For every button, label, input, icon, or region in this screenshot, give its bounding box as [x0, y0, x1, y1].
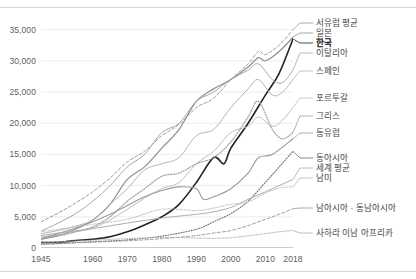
legend-label-5: 포르투갈 — [316, 93, 348, 103]
legend-label-4: 스페인 — [316, 66, 340, 76]
y-tick-label: 10,000 — [0, 181, 36, 191]
x-tick-label: 1945 — [21, 254, 61, 264]
series-line-7 — [41, 139, 293, 239]
chart-legend: 서유럽 평균일본한국이탈리아스페인포르투갈그리스동유럽동아시아세계 평균남미남아… — [293, 0, 416, 279]
series-line-12 — [41, 231, 293, 243]
chart-svg — [41, 14, 293, 248]
y-tick-label: 15,000 — [0, 149, 36, 159]
legend-label-0: 서유럽 평균 — [316, 18, 358, 28]
series-line-3 — [41, 64, 293, 232]
legend-label-9: 세계 평균 — [316, 163, 350, 173]
y-tick-label: 30,000 — [0, 56, 36, 66]
legend-label-3: 이탈리아 — [316, 48, 348, 58]
y-tick-label: 25,000 — [0, 87, 36, 97]
legend-label-7: 동유럽 — [316, 128, 340, 138]
series-line-4 — [41, 79, 293, 233]
legend-label-12: 사하라 이남 아프리카 — [316, 228, 393, 238]
legend-label-1: 일본 — [316, 28, 332, 38]
chart-figure: 05,00010,00015,00020,00025,00030,00035,0… — [0, 0, 416, 279]
y-tick-label: 0 — [0, 243, 36, 253]
plot-area — [41, 14, 293, 248]
y-tick-label: 20,000 — [0, 118, 36, 128]
legend-label-10: 남미 — [316, 173, 332, 183]
legend-label-2: 한국 — [316, 38, 332, 48]
series-line-6 — [41, 101, 293, 239]
series-line-0 — [41, 30, 293, 222]
legend-label-6: 그리스 — [316, 111, 340, 121]
legend-label-8: 동아시아 — [316, 153, 348, 163]
y-tick-label: 35,000 — [0, 25, 36, 35]
y-tick-label: 5,000 — [0, 212, 36, 222]
legend-label-11: 남아시아 · 동남아시아 — [316, 203, 396, 213]
